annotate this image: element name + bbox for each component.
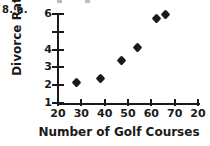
x-axis-tick bbox=[104, 99, 106, 106]
x-axis-tick-label: 30 bbox=[69, 108, 93, 119]
data-point bbox=[132, 43, 142, 53]
data-point bbox=[160, 9, 170, 19]
y-axis-title: Divorce Rate bbox=[11, 0, 24, 83]
y-axis-tick bbox=[52, 31, 64, 33]
y-axis-tick-label: 4 bbox=[38, 44, 52, 55]
y-axis-tick-label: 3 bbox=[38, 61, 52, 72]
x-axis-tick-label: 70 bbox=[163, 108, 187, 119]
x-axis-tick-label: 20 bbox=[186, 108, 210, 119]
y-axis-tick bbox=[52, 13, 64, 15]
x-axis-tick bbox=[127, 99, 129, 106]
x-axis-tick bbox=[174, 99, 176, 106]
plot-area: 64321 20304050607020 Divorce Rate Number… bbox=[0, 0, 210, 146]
x-axis-tick bbox=[150, 99, 152, 106]
data-point bbox=[116, 55, 126, 65]
x-axis-tick-label: 40 bbox=[93, 108, 117, 119]
x-axis-tick-label: 50 bbox=[116, 108, 140, 119]
x-axis-tick bbox=[57, 99, 59, 106]
y-axis-line bbox=[57, 13, 59, 105]
y-axis-tick-label: 2 bbox=[38, 79, 52, 90]
y-axis-tick bbox=[52, 66, 64, 68]
data-point bbox=[72, 78, 82, 88]
scatter-plot-figure: 8. a. 64321 20304050607020 Divorce Rate … bbox=[0, 0, 210, 146]
data-point bbox=[95, 73, 105, 83]
x-axis-title: Number of Golf Courses bbox=[30, 126, 208, 139]
x-axis-tick-label: 20 bbox=[46, 108, 70, 119]
x-axis-tick bbox=[197, 99, 199, 106]
x-axis-tick bbox=[80, 99, 82, 106]
y-axis-tick bbox=[52, 84, 64, 86]
y-axis-tick bbox=[52, 49, 64, 51]
data-point bbox=[151, 13, 161, 23]
x-axis-tick-label: 60 bbox=[139, 108, 163, 119]
y-axis-tick-label: 6 bbox=[38, 8, 52, 19]
